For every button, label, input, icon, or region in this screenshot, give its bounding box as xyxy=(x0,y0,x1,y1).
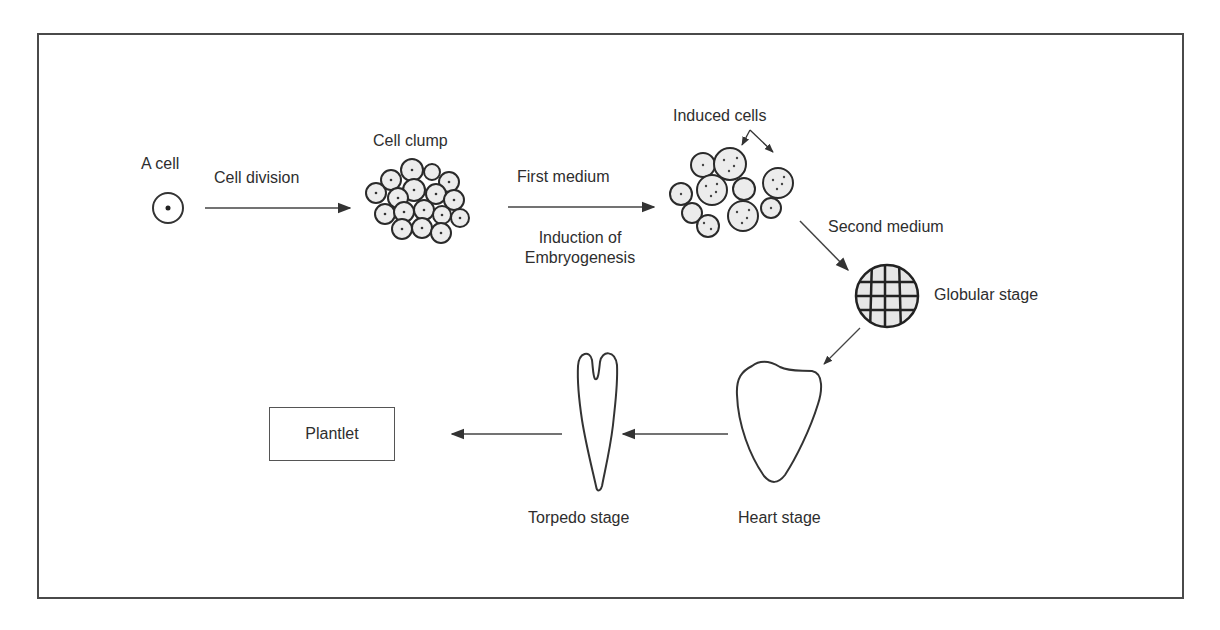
diagram-artwork xyxy=(0,0,1220,630)
induced-cells-icon xyxy=(670,148,793,237)
induced-cells-pointer xyxy=(750,130,773,152)
heart-stage-icon xyxy=(737,362,821,482)
cell-clump-icon xyxy=(366,159,469,243)
induced-cells-pointer xyxy=(742,130,750,145)
plantlet-box: Plantlet xyxy=(269,407,395,461)
label-induction-line1: Induction of xyxy=(510,229,650,247)
label-torpedo-stage: Torpedo stage xyxy=(528,509,629,527)
label-cell-division: Cell division xyxy=(214,169,299,187)
label-heart-stage: Heart stage xyxy=(738,509,821,527)
globular-to-heart-arrow xyxy=(824,328,860,364)
globular-stage-icon xyxy=(850,260,925,332)
label-a-cell: A cell xyxy=(141,155,179,173)
label-globular-stage: Globular stage xyxy=(934,286,1038,304)
label-induced-cells: Induced cells xyxy=(673,107,766,125)
label-plantlet: Plantlet xyxy=(305,425,358,443)
label-induction-line2: Embryogenesis xyxy=(510,249,650,267)
single-cell-icon xyxy=(153,193,183,223)
torpedo-stage-icon xyxy=(578,353,617,490)
label-second-medium: Second medium xyxy=(828,218,944,236)
label-first-medium: First medium xyxy=(517,168,609,186)
label-cell-clump: Cell clump xyxy=(373,132,448,150)
